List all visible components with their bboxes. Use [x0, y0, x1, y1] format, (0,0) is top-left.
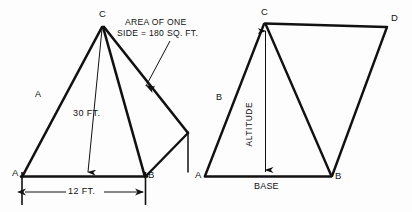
parallelogram-vertex-label-B: B — [335, 170, 342, 182]
parallelogram-edge-AC — [205, 24, 264, 176]
pyramid-base-dimension-label: 12 FT. — [68, 186, 95, 197]
parallelogram-vertex-label-C: C — [261, 6, 268, 18]
callout-leader-line — [146, 41, 170, 86]
pyramid-vertex-label-A: A — [12, 167, 19, 179]
pyramid-vertex-label-C: C — [99, 8, 106, 20]
parallelogram-base-label: BASE — [254, 181, 279, 192]
diagram-canvas — [0, 0, 412, 212]
parallelogram-side-label-B: B — [216, 92, 222, 103]
pyramid-slant-height-label: 30 FT. — [73, 108, 100, 119]
area-callout-line1: AREA OF ONE — [125, 17, 187, 28]
parallelogram-altitude-label: ALTITUDE — [244, 102, 255, 147]
parallelogram-edge-DB — [332, 27, 387, 176]
parallelogram-outline — [205, 24, 387, 177]
parallelogram-vertex-label-D: D — [391, 12, 398, 24]
area-callout-line2: SIDE = 180 SQ. FT. — [117, 28, 198, 39]
pyramid-edge-CB — [103, 27, 145, 177]
pyramid-face-label-A: A — [35, 89, 41, 100]
diagram-figure: C A B A 30 FT. 12 FT. AREA OF ONE SIDE =… — [0, 0, 412, 212]
parallelogram-edge-CD — [265, 24, 386, 28]
pyramid-outline — [21, 27, 188, 177]
parallelogram-diagonal-CB — [266, 25, 331, 175]
callout-leader — [146, 41, 170, 86]
pyramid-vertex-label-B: B — [148, 169, 155, 181]
parallelogram-vertex-label-A: A — [195, 169, 202, 181]
